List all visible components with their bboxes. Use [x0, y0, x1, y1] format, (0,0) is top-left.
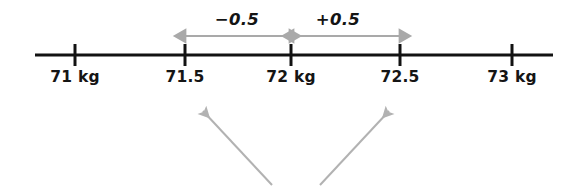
- tick-label: 73 kg: [487, 68, 536, 86]
- figure-canvas: [0, 0, 572, 194]
- delta-label: +0.5: [316, 10, 360, 29]
- pointer-arrow-left: [203, 111, 272, 185]
- pointer-arrows-group: [203, 111, 389, 185]
- tick-label: 72 kg: [266, 68, 315, 86]
- delta-label: −0.5: [215, 10, 259, 29]
- tick-label: 71 kg: [50, 68, 99, 86]
- tick-label: 72.5: [380, 68, 419, 86]
- number-line-figure: 71 kg71.572 kg72.573 kg −0.5+0.5: [0, 0, 572, 194]
- pointer-arrow-right: [320, 111, 389, 185]
- tick-label: 71.5: [165, 68, 204, 86]
